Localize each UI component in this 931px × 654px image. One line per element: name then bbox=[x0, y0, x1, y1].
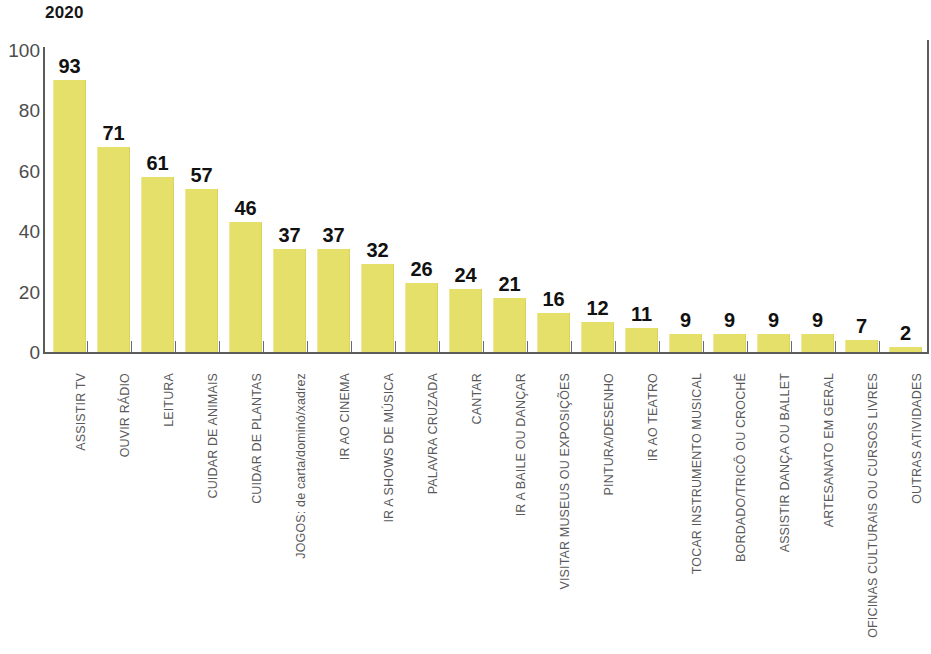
plot-area: 9371615746373732262421161211999972 bbox=[45, 50, 927, 352]
bar[interactable] bbox=[625, 328, 658, 352]
bar-slot: 57 bbox=[177, 50, 221, 352]
category-label: CUIDAR DE PLANTAS bbox=[251, 373, 264, 504]
bar-value-label: 24 bbox=[441, 265, 490, 285]
y-axis-tick-labels: 020406080100 bbox=[0, 0, 40, 654]
x-axis-tick-mark bbox=[483, 341, 484, 352]
bar[interactable] bbox=[449, 289, 482, 352]
bar[interactable] bbox=[713, 334, 746, 352]
x-axis-tick-mark bbox=[219, 341, 220, 352]
x-axis-tick-mark bbox=[263, 341, 264, 352]
bar-slot: 71 bbox=[89, 50, 133, 352]
x-axis-tick-mark bbox=[527, 341, 528, 352]
bar[interactable] bbox=[845, 340, 878, 352]
bar[interactable] bbox=[185, 189, 218, 352]
category-label: PALAVRA CRUZADA bbox=[427, 373, 440, 494]
x-axis-tick-mark bbox=[879, 341, 880, 352]
category-label: VISITAR MUSEUS OU EXPOSIÇÕES bbox=[559, 373, 572, 590]
bar[interactable] bbox=[273, 249, 306, 352]
category-label: OFICINAS CULTURAIS OU CURSOS LIVRES bbox=[867, 373, 880, 638]
bar-slot: 32 bbox=[353, 50, 397, 352]
x-axis-tick-mark bbox=[131, 341, 132, 352]
y-tick-label: 100 bbox=[4, 41, 40, 60]
bar[interactable] bbox=[889, 347, 922, 352]
bar[interactable] bbox=[405, 283, 438, 352]
category-label: IR AO CINEMA bbox=[339, 373, 352, 460]
bar[interactable] bbox=[669, 334, 702, 352]
x-axis-tick-mark bbox=[571, 341, 572, 352]
x-axis-tick-mark bbox=[351, 341, 352, 352]
bar-slot: 61 bbox=[133, 50, 177, 352]
x-axis-tick-mark bbox=[835, 341, 836, 352]
x-axis-tick-mark bbox=[703, 341, 704, 352]
bar-value-label: 37 bbox=[265, 225, 314, 245]
bar[interactable] bbox=[361, 264, 394, 352]
x-axis-line bbox=[43, 352, 929, 354]
category-label: OUVIR RÁDIO bbox=[119, 373, 132, 457]
bar[interactable] bbox=[493, 298, 526, 352]
bar-slot: 37 bbox=[309, 50, 353, 352]
bar-value-label: 71 bbox=[89, 123, 138, 143]
y-tick-label: 0 bbox=[4, 343, 40, 362]
bar-slot: 2 bbox=[881, 50, 925, 352]
bar-chart: 2020 020406080100 9371615746373732262421… bbox=[0, 0, 931, 654]
category-label: ASSISTIR TV bbox=[75, 373, 88, 451]
bar-slot: 37 bbox=[265, 50, 309, 352]
bar[interactable] bbox=[757, 334, 790, 352]
bar-value-label: 46 bbox=[221, 198, 270, 218]
bar-slot: 9 bbox=[661, 50, 705, 352]
category-label: IR AO TEATRO bbox=[647, 373, 660, 461]
x-axis-tick-mark bbox=[307, 341, 308, 352]
bar-value-label: 61 bbox=[133, 153, 182, 173]
category-label: ASSISTIR DANÇA OU BALLET bbox=[779, 373, 792, 552]
bar-value-label: 9 bbox=[705, 310, 754, 330]
bar-value-label: 16 bbox=[529, 289, 578, 309]
x-axis-tick-mark bbox=[791, 341, 792, 352]
category-label: JOGOS: de carta/dominó/xadrez bbox=[295, 373, 308, 559]
bar-slot: 16 bbox=[529, 50, 573, 352]
bar-slot: 21 bbox=[485, 50, 529, 352]
y-tick-label: 20 bbox=[4, 282, 40, 301]
bar-value-label: 2 bbox=[881, 323, 930, 343]
bar-value-label: 9 bbox=[661, 310, 710, 330]
y-tick-label: 80 bbox=[4, 101, 40, 120]
bar[interactable] bbox=[141, 177, 174, 352]
bar-slot: 7 bbox=[837, 50, 881, 352]
bar-slot: 26 bbox=[397, 50, 441, 352]
bar-value-label: 11 bbox=[617, 304, 666, 324]
category-label: CUIDAR DE ANIMAIS bbox=[207, 373, 220, 499]
bar[interactable] bbox=[801, 334, 834, 352]
bar-slot: 9 bbox=[705, 50, 749, 352]
bar-slot: 93 bbox=[45, 50, 89, 352]
bar-value-label: 7 bbox=[837, 316, 886, 336]
bar-value-label: 37 bbox=[309, 225, 358, 245]
category-label: IR A SHOWS DE MÚSICA bbox=[383, 373, 396, 523]
category-label: ARTESANATO EM GERAL bbox=[823, 373, 836, 527]
x-axis-tick-mark bbox=[615, 341, 616, 352]
bar-value-label: 26 bbox=[397, 259, 446, 279]
bar[interactable] bbox=[581, 322, 614, 352]
category-label: OUTRAS ATIVIDADES bbox=[911, 373, 924, 504]
x-axis-tick-mark bbox=[747, 341, 748, 352]
bar-value-label: 9 bbox=[793, 310, 842, 330]
bar-value-label: 32 bbox=[353, 240, 402, 260]
bar[interactable] bbox=[97, 147, 130, 352]
y-tick-label: 60 bbox=[4, 161, 40, 180]
bar[interactable] bbox=[229, 222, 262, 352]
right-frame-line bbox=[927, 40, 929, 354]
x-axis-tick-mark bbox=[395, 341, 396, 352]
x-axis-tick-mark bbox=[659, 341, 660, 352]
x-axis-tick-mark bbox=[175, 341, 176, 352]
bar-slot: 9 bbox=[793, 50, 837, 352]
bar-slot: 12 bbox=[573, 50, 617, 352]
bar-value-label: 57 bbox=[177, 165, 226, 185]
bar[interactable] bbox=[537, 313, 570, 352]
bar[interactable] bbox=[53, 80, 86, 352]
x-axis-tick-mark bbox=[87, 341, 88, 352]
category-label: TOCAR INSTRUMENTO MUSICAL bbox=[691, 373, 704, 574]
x-axis-tick-mark bbox=[439, 341, 440, 352]
bar-slot: 11 bbox=[617, 50, 661, 352]
bar-value-label: 9 bbox=[749, 310, 798, 330]
bar-value-label: 93 bbox=[45, 56, 94, 76]
category-label: PINTURA/DESENHO bbox=[603, 373, 616, 495]
bar[interactable] bbox=[317, 249, 350, 352]
